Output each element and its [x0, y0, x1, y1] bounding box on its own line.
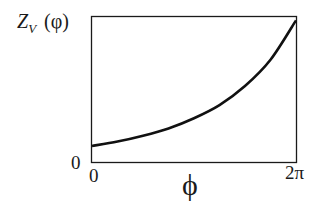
x-axis-label: ϕ: [182, 168, 198, 202]
x-tick-0: 0: [89, 165, 99, 187]
y-tick-0: 0: [71, 152, 81, 174]
data-line: [92, 20, 296, 146]
x-tick-2pi: 2π: [285, 162, 304, 184]
y-axis-label: ZV (φ): [17, 10, 69, 37]
